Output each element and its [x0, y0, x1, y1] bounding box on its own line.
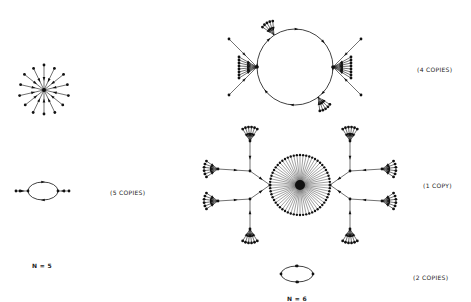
node	[19, 190, 22, 193]
arrow-icon	[52, 86, 56, 89]
copies-label-2: (2 COPIES)	[413, 274, 448, 281]
graph-diagram	[0, 0, 471, 302]
node	[63, 190, 66, 193]
node	[43, 113, 46, 116]
node	[329, 181, 331, 183]
node	[273, 199, 275, 201]
node	[360, 38, 363, 41]
node	[312, 273, 315, 276]
node	[271, 20, 274, 23]
arrow-icon	[349, 156, 352, 160]
node	[327, 105, 330, 108]
node	[273, 169, 275, 171]
node	[350, 242, 353, 245]
node	[203, 169, 206, 172]
node	[328, 190, 330, 192]
node	[271, 172, 273, 174]
node	[360, 94, 363, 97]
star-tree-graph	[203, 126, 398, 245]
node	[311, 211, 313, 213]
node	[238, 62, 241, 65]
node	[293, 213, 295, 215]
node	[277, 164, 279, 166]
node	[275, 166, 277, 168]
node	[241, 240, 244, 243]
node	[203, 205, 206, 208]
node	[299, 214, 301, 216]
node	[344, 241, 347, 244]
arrow-icon	[37, 98, 40, 102]
node	[68, 190, 71, 193]
arrow-icon	[259, 177, 263, 180]
node	[19, 83, 22, 86]
node	[203, 166, 206, 169]
node	[344, 126, 347, 129]
arrow-icon	[249, 156, 252, 160]
node	[205, 192, 208, 195]
node	[247, 126, 250, 129]
node	[302, 214, 304, 216]
node	[23, 73, 26, 76]
copies-label-4: (4 COPIES)	[417, 66, 452, 73]
node	[347, 242, 350, 245]
node	[326, 196, 328, 198]
node	[266, 22, 269, 25]
arrow-icon	[337, 177, 341, 180]
arrow-icon	[43, 77, 46, 81]
node	[311, 156, 313, 158]
node	[67, 94, 70, 97]
node	[281, 160, 283, 162]
node	[329, 187, 331, 189]
node	[66, 83, 69, 86]
node	[394, 201, 397, 204]
node	[205, 176, 208, 179]
node	[314, 158, 316, 160]
node	[32, 67, 35, 70]
node	[269, 190, 271, 192]
node	[284, 210, 286, 212]
node	[205, 208, 208, 211]
arrow-icon	[43, 99, 46, 103]
node	[280, 273, 283, 276]
node	[318, 109, 321, 112]
node	[62, 73, 65, 76]
node	[353, 126, 356, 129]
node	[53, 67, 56, 70]
arrow-icon	[337, 190, 341, 193]
node	[290, 155, 292, 157]
node	[325, 199, 327, 201]
node	[238, 59, 241, 62]
node	[287, 156, 289, 158]
node	[299, 154, 301, 156]
node	[394, 205, 397, 208]
node	[32, 111, 35, 114]
arrow-icon	[249, 210, 252, 214]
node	[302, 154, 304, 156]
node	[247, 242, 250, 245]
cycle-with-tails	[15, 181, 71, 202]
node	[205, 160, 208, 163]
node	[350, 68, 353, 71]
node	[350, 62, 353, 65]
node	[203, 198, 206, 201]
node	[316, 208, 318, 210]
star-graph	[18, 64, 70, 116]
node	[356, 128, 359, 131]
arrow-icon	[41, 199, 45, 202]
node	[203, 163, 206, 166]
node	[238, 71, 241, 74]
node	[392, 192, 395, 195]
node	[269, 181, 271, 183]
big-cycle-graph	[228, 20, 363, 113]
arrow-icon	[48, 78, 51, 82]
node	[327, 193, 329, 195]
node	[293, 154, 295, 156]
node	[270, 175, 272, 177]
arrow-icon	[37, 78, 40, 82]
node	[238, 56, 241, 59]
node	[277, 204, 279, 206]
node	[350, 65, 353, 68]
node	[347, 126, 350, 129]
node	[284, 158, 286, 160]
node	[319, 162, 321, 164]
